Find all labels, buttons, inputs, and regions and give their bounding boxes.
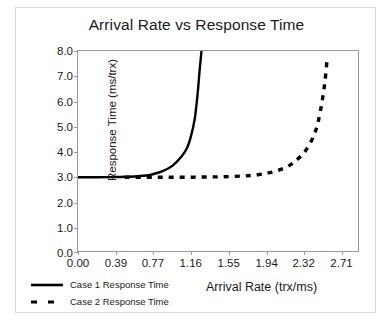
- y-tick-label: 8.0: [57, 45, 73, 57]
- y-tick-label: 3.0: [57, 171, 73, 183]
- y-tick-mark: [74, 152, 78, 153]
- legend-label: Case 2 Response Time: [70, 296, 169, 307]
- series-curve: [125, 61, 327, 177]
- y-tick-mark: [74, 51, 78, 52]
- x-axis-title: Arrival Rate (trx/ms): [206, 280, 317, 294]
- x-tick-mark: [78, 251, 79, 255]
- x-tick-mark: [229, 251, 230, 255]
- chart-title: Arrival Rate vs Response Time: [16, 16, 377, 34]
- y-tick-label: 2.0: [57, 197, 73, 209]
- x-tick-mark: [304, 251, 305, 255]
- y-tick-label: 4.0: [57, 146, 73, 158]
- y-tick-mark: [74, 127, 78, 128]
- y-tick-mark: [74, 177, 78, 178]
- x-tick-label: 0.00: [67, 257, 89, 269]
- series-curve: [78, 51, 202, 177]
- x-tick-mark: [116, 251, 117, 255]
- y-tick-label: 5.0: [57, 121, 73, 133]
- x-tick-label: 1.94: [255, 257, 277, 269]
- chart-figure: Arrival Rate vs Response Time Response T…: [15, 7, 376, 313]
- y-tick-mark: [74, 102, 78, 103]
- x-tick-label: 2.32: [292, 257, 314, 269]
- x-tick-label: 0.39: [105, 257, 127, 269]
- legend-label: Case 1 Response Time: [70, 279, 169, 290]
- plot-curves: [78, 51, 360, 253]
- legend-item: Case 1 Response Time: [30, 276, 220, 293]
- x-tick-label: 1.16: [180, 257, 202, 269]
- y-tick-mark: [74, 203, 78, 204]
- x-tick-label: 2.71: [330, 257, 352, 269]
- x-tick-label: 0.77: [142, 257, 164, 269]
- y-tick-label: 1.0: [57, 222, 73, 234]
- x-tick-label: 1.55: [218, 257, 240, 269]
- y-axis-title: Response Time (ms/trx): [106, 19, 118, 221]
- chart-legend: Case 1 Response Time Case 2 Response Tim…: [30, 276, 220, 310]
- y-tick-mark: [74, 76, 78, 77]
- x-tick-mark: [191, 251, 192, 255]
- y-tick-label: 7.0: [57, 70, 73, 82]
- x-tick-mark: [153, 251, 154, 255]
- plot-area: Response Time (ms/trx) 0.01.02.03.04.05.…: [77, 50, 359, 252]
- legend-item: Case 2 Response Time: [30, 293, 220, 310]
- legend-swatch-dashed: [30, 296, 64, 308]
- y-tick-mark: [74, 228, 78, 229]
- legend-swatch-solid: [30, 279, 64, 291]
- y-tick-label: 6.0: [57, 96, 73, 108]
- x-tick-mark: [342, 251, 343, 255]
- x-tick-mark: [267, 251, 268, 255]
